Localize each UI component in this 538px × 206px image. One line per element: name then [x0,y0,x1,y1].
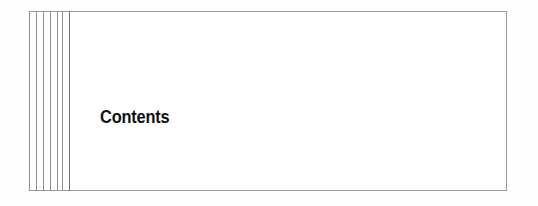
spine-rule-3 [43,11,44,191]
spine-rule-5 [57,11,58,191]
page-content-area: Contents [70,11,507,191]
spine-rule-2 [36,11,37,191]
spine-rule-4 [50,11,51,191]
page-title: Contents [100,107,169,126]
spine-rule-6 [62,11,63,191]
scanned-page-canvas: Contents [0,0,538,206]
spine-rule-1 [29,11,30,191]
decorative-spine-band [29,11,70,191]
